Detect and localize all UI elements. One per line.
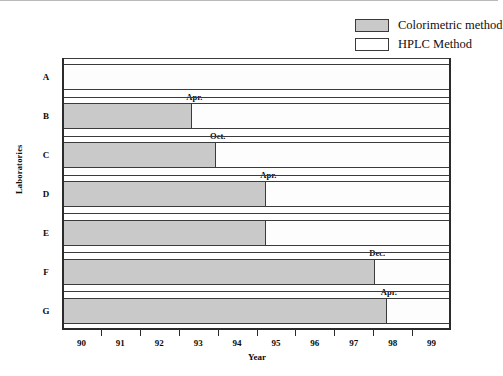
chart-row-b [64, 103, 449, 129]
bar-colorimetric-f [64, 260, 375, 284]
plot-inner: Apr.Oct.Apr.Dec.Apr. [64, 58, 449, 328]
x-tick-label-91: 91 [116, 338, 125, 348]
y-tick-label-a: A [39, 72, 53, 82]
x-axis-tick [373, 330, 374, 336]
x-tick-label-96: 96 [310, 338, 319, 348]
row-separator [64, 136, 449, 137]
legend-label-colorimetric: Colorimetric method [398, 18, 503, 32]
x-tick-label-98: 98 [388, 338, 397, 348]
bar-colorimetric-b [64, 104, 192, 128]
chart-row-d [64, 181, 449, 207]
row-separator [64, 252, 449, 253]
plot-top-rule [64, 58, 449, 59]
x-axis-tick [295, 330, 296, 336]
x-tick-label-99: 99 [427, 338, 436, 348]
x-tick-label-94: 94 [233, 338, 242, 348]
x-tick-label-97: 97 [349, 338, 358, 348]
chart-legend: Colorimetric method HPLC Method [355, 16, 495, 54]
chart-row-c [64, 142, 449, 168]
bar-colorimetric-c [64, 143, 216, 167]
y-tick-label-c: C [39, 150, 53, 160]
x-axis-tick [257, 330, 258, 336]
x-axis-tick [334, 330, 335, 336]
y-axis-title: Laboratories [14, 144, 24, 194]
y-tick-label-f: F [39, 267, 53, 277]
y-tick-label-b: B [39, 111, 53, 121]
chart-row-f [64, 259, 449, 285]
x-axis-tick [140, 330, 141, 336]
y-tick-label-e: E [39, 228, 53, 238]
chart-row-g [64, 298, 449, 324]
x-axis-tick [179, 330, 180, 336]
chart-row-a [64, 64, 449, 90]
row-separator [64, 213, 449, 214]
legend-item-hplc: HPLC Method [355, 35, 495, 53]
row-separator [64, 175, 449, 176]
legend-swatch-hplc-icon [355, 38, 389, 51]
row-separator [64, 97, 449, 98]
legend-swatch-colorimetric-icon [355, 19, 389, 32]
x-axis-tick [218, 330, 219, 336]
x-axis-title: Year [248, 352, 266, 362]
legend-item-colorimetric: Colorimetric method [355, 16, 495, 34]
bar-colorimetric-e [64, 221, 266, 245]
x-axis-tick [412, 330, 413, 336]
top-divider-rule [0, 0, 498, 1]
x-axis-tick [101, 330, 102, 336]
x-tick-label-92: 92 [155, 338, 164, 348]
plot-area: Apr.Oct.Apr.Dec.Apr. [62, 58, 451, 330]
bar-colorimetric-d [64, 182, 266, 206]
y-tick-label-d: D [39, 189, 53, 199]
x-tick-label-90: 90 [77, 338, 86, 348]
x-tick-label-95: 95 [271, 338, 280, 348]
chart-row-e [64, 220, 449, 246]
x-tick-label-93: 93 [194, 338, 203, 348]
bar-colorimetric-g [64, 299, 387, 323]
row-separator [64, 291, 449, 292]
y-tick-label-g: G [39, 306, 53, 316]
legend-label-hplc: HPLC Method [398, 37, 472, 51]
